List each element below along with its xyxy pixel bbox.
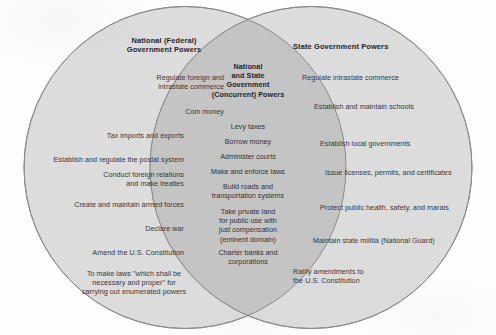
right-item-2: Establish and maintain schools bbox=[314, 102, 494, 111]
venn-diagram-canvas: National (Federal) Government Powers Reg… bbox=[0, 0, 496, 335]
left-set-heading: National (Federal) Government Powers bbox=[104, 36, 224, 55]
right-item-1: Regulate intrastate commerce bbox=[302, 73, 482, 82]
center-item-5: Build roads and transportation systems bbox=[203, 182, 293, 200]
left-item-9: To make laws "which shall be necessary a… bbox=[64, 269, 204, 297]
right-item-6: Maintain state militia (National Guard) bbox=[313, 236, 493, 245]
right-item-5: Protect public health, safety, and maral… bbox=[320, 203, 496, 212]
venn-text-layer: National (Federal) Government Powers Reg… bbox=[0, 0, 496, 335]
left-item-2: Coin money bbox=[64, 107, 224, 116]
center-item-6: Take private land for public use with ju… bbox=[206, 207, 290, 244]
right-item-7: Ratify amendments to the U.S. Constituti… bbox=[293, 267, 473, 285]
left-item-6: Create and maintain armed forces bbox=[24, 200, 184, 209]
left-item-7: Declare war bbox=[84, 224, 184, 233]
center-item-7: Charter banks and corporations bbox=[209, 248, 287, 266]
center-set-heading: National and State Government (Concurren… bbox=[211, 62, 285, 99]
left-item-8: Amend the U.S. Constitution bbox=[44, 248, 184, 257]
left-item-1: Regulate foreign and intrastate commerce bbox=[64, 73, 224, 91]
center-item-2: Borrow money bbox=[209, 137, 287, 146]
left-item-5: Conduct foreign relations and make treat… bbox=[44, 170, 184, 188]
right-set-heading: State Government Powers bbox=[293, 42, 453, 51]
center-item-1: Levy taxes bbox=[211, 122, 285, 131]
right-item-4: Issue licenses, permits, and certificate… bbox=[325, 168, 496, 177]
left-item-4: Establish and regulate the postal system bbox=[14, 155, 184, 164]
center-item-4: Make and enforce laws bbox=[203, 167, 293, 176]
left-item-3: Tax imports and exports bbox=[44, 131, 184, 140]
right-item-3: Establish local governments bbox=[320, 139, 496, 148]
center-item-3: Administer courts bbox=[206, 152, 290, 161]
